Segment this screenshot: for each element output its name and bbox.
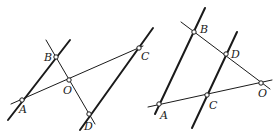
line-AC	[11, 46, 143, 104]
point-o	[259, 81, 263, 85]
point-label-b: B	[199, 23, 208, 36]
figure-left: ABOCD	[8, 28, 153, 133]
line-AB	[8, 40, 70, 120]
line-AB	[155, 8, 205, 114]
point-label-a: A	[18, 103, 27, 116]
diagram-canvas: ABOCDABCDO	[0, 0, 277, 136]
geometry-diagram: ABOCDABCDO	[0, 0, 277, 136]
point-a	[20, 98, 24, 102]
point-d	[87, 112, 91, 116]
point-label-d: D	[230, 48, 240, 61]
point-label-o: O	[63, 84, 72, 97]
point-label-c: C	[141, 50, 150, 63]
point-d	[224, 52, 228, 56]
line-CD	[192, 32, 237, 128]
point-o	[67, 78, 71, 82]
figure-right: ABCDO	[148, 8, 272, 128]
point-label-o: O	[258, 87, 267, 100]
point-label-a: A	[159, 109, 168, 122]
point-label-d: D	[83, 120, 93, 133]
point-c	[205, 93, 209, 97]
point-a	[157, 102, 161, 106]
point-b	[54, 55, 58, 59]
point-label-b: B	[43, 51, 52, 64]
point-label-c: C	[209, 99, 218, 112]
point-b	[192, 30, 196, 34]
